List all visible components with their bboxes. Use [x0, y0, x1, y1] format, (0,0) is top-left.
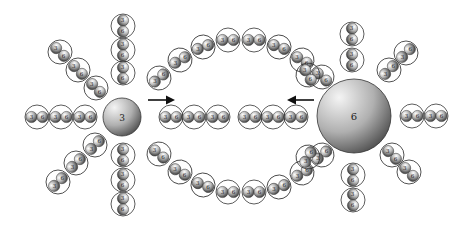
small-ball-label: 6	[89, 114, 93, 120]
left-core-label: 3	[119, 113, 125, 123]
small-ball-label: 6	[222, 114, 226, 120]
ball-pair: 36	[400, 104, 424, 128]
ball-pair: 36	[340, 22, 364, 46]
small-ball-label: 6	[183, 172, 187, 178]
small-ball-label: 3	[247, 37, 251, 43]
cluster-left-lower-diagonal: 363636	[41, 128, 112, 199]
small-ball-label: 3	[303, 67, 307, 73]
small-ball-label: 6	[391, 63, 395, 69]
cluster-middle-right: 363636	[238, 105, 308, 129]
small-ball-label: 3	[401, 54, 405, 60]
small-ball-label: 3	[71, 164, 75, 170]
small-ball-label: 6	[121, 75, 125, 81]
small-ball-label: 3	[350, 25, 354, 31]
small-ball-label: 6	[206, 184, 210, 190]
ball-pair: 36	[264, 32, 295, 63]
left-core-ball: 3	[103, 98, 141, 136]
small-ball-label: 3	[78, 114, 82, 120]
small-ball-label: 6	[161, 154, 165, 160]
ball-pair: 36	[188, 170, 219, 201]
small-ball-label: 3	[174, 60, 178, 66]
ball-pair: 36	[238, 105, 262, 129]
ball-pair: 36	[111, 38, 135, 62]
diagram-canvas: 3636363636363636363636363636363636363636…	[0, 0, 467, 233]
ball-pair: 36	[340, 48, 364, 72]
small-ball-label: 6	[97, 138, 101, 144]
small-ball-label: 6	[350, 36, 354, 42]
ball-pair: 36	[111, 14, 135, 38]
small-ball-label: 3	[164, 114, 168, 120]
small-ball-label: 6	[283, 182, 287, 188]
cluster-right-upper-vertical: 3636	[340, 22, 364, 72]
small-ball-label: 6	[324, 77, 328, 83]
small-ball-label: 3	[121, 64, 125, 70]
ball-pair: 36	[242, 180, 266, 204]
cluster-right-upper-diagonal: 3636	[372, 36, 423, 87]
small-ball-label: 3	[350, 51, 354, 57]
small-ball-label: 3	[90, 146, 94, 152]
small-ball-label: 6	[394, 156, 398, 162]
small-ball-label: 6	[121, 182, 125, 188]
small-ball-label: 6	[60, 175, 64, 181]
small-ball-label: 6	[282, 46, 286, 52]
ball-pair: 36	[111, 61, 135, 85]
small-ball-label: 6	[198, 114, 202, 120]
ball-pair: 36	[25, 105, 49, 129]
ball-pair: 36	[341, 188, 365, 212]
small-ball-label: 6	[408, 46, 412, 52]
small-ball-label: 6	[121, 52, 125, 58]
small-ball-label: 3	[153, 147, 157, 153]
cluster-left-lower-vertical: 363636	[111, 143, 135, 216]
small-ball-label: 3	[121, 17, 125, 23]
ball-pair: 36	[261, 105, 285, 129]
ball-pair: 36	[284, 105, 308, 129]
small-ball-label: 6	[411, 173, 415, 179]
small-ball-label: 3	[90, 81, 94, 87]
ball-pair: 36	[182, 105, 206, 129]
small-ball-label: 6	[325, 148, 329, 154]
small-ball-label: 6	[309, 76, 313, 82]
small-ball-label: 6	[416, 113, 420, 119]
small-ball-label: 3	[289, 114, 293, 120]
small-ball-label: 6	[277, 114, 281, 120]
small-ball-label: 6	[98, 89, 102, 95]
cluster-right-lower-vertical: 3636	[341, 163, 365, 212]
small-ball-label: 3	[272, 42, 276, 48]
small-ball-label: 6	[183, 54, 187, 60]
small-ball-label: 3	[351, 166, 355, 172]
small-ball-label: 3	[429, 113, 433, 119]
ball-pair: 36	[264, 172, 295, 203]
small-ball-label: 3	[211, 114, 215, 120]
small-ball-label: 6	[207, 42, 211, 48]
small-ball-label: 3	[384, 71, 388, 77]
small-ball-label: 3	[196, 180, 200, 186]
cluster-right-lower-diagonal: 3636	[375, 138, 426, 189]
cluster-left-upper-diagonal: 363636	[43, 35, 113, 105]
ball-pair: 36	[424, 104, 448, 128]
cluster-right-horizontal: 3636	[400, 104, 448, 128]
small-ball-label: 6	[62, 53, 66, 59]
ball-pair: 36	[216, 28, 240, 52]
small-ball-label: 3	[121, 195, 125, 201]
right-core-ball: 6	[317, 79, 391, 153]
small-ball-label: 3	[221, 37, 225, 43]
ball-pair: 36	[341, 163, 365, 187]
small-ball-label: 6	[305, 167, 309, 173]
small-ball-label: 6	[258, 189, 262, 195]
ball-pair: 36	[188, 32, 219, 63]
small-ball-label: 6	[232, 189, 236, 195]
small-ball-label: 3	[272, 186, 276, 192]
small-ball-label: 6	[78, 156, 82, 162]
cluster-left-horizontal: 363636	[25, 105, 97, 129]
small-ball-label: 6	[65, 114, 69, 120]
small-ball-label: 6	[162, 71, 166, 77]
small-ball-label: 3	[53, 183, 57, 189]
small-ball-label: 3	[403, 165, 407, 171]
small-ball-label: 6	[175, 114, 179, 120]
small-ball-label: 3	[196, 46, 200, 52]
ball-pair: 36	[49, 105, 73, 129]
ball-pair: 36	[206, 105, 230, 129]
small-ball-label: 6	[258, 37, 262, 43]
small-ball-label: 6	[232, 37, 236, 43]
small-ball-label: 3	[54, 45, 58, 51]
